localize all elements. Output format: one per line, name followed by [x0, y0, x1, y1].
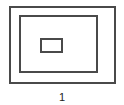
figure-caption: 1 [0, 91, 124, 103]
inner-rectangle [40, 38, 63, 53]
